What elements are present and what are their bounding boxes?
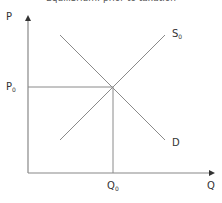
y-axis-label-text: P	[6, 11, 12, 22]
equilibrium-quantity-subscript: 0	[115, 185, 119, 192]
supply-label-subscript: 0	[178, 33, 182, 40]
y-axis-label: P	[6, 12, 12, 22]
x-axis-label-text: Q	[207, 180, 215, 191]
supply-label: S0	[172, 29, 182, 40]
equilibrium-price-label: P0	[6, 82, 16, 93]
x-axis-label: Q	[207, 181, 215, 191]
equilibrium-quantity-label: Q0	[107, 181, 119, 192]
supply-demand-diagram: Equilibrium: prior to taxation P Q S0 D	[0, 0, 222, 203]
equilibrium-quantity-text: Q	[107, 180, 115, 191]
demand-label-text: D	[172, 137, 180, 148]
diagram-graphic	[0, 0, 222, 203]
demand-label: D	[172, 138, 180, 148]
equilibrium-price-subscript: 0	[12, 86, 16, 93]
